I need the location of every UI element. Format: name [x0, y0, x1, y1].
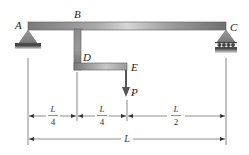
svg-text:L: L	[49, 104, 55, 114]
svg-text:2: 2	[174, 117, 179, 127]
dim-total-label: L	[123, 133, 130, 144]
label-c: C	[230, 21, 238, 33]
dim-seg1: L 4	[48, 104, 58, 127]
svg-text:L: L	[172, 104, 178, 114]
label-p: P	[130, 86, 138, 98]
svg-text:4: 4	[51, 117, 56, 127]
label-b: B	[74, 8, 81, 20]
svg-text:L: L	[98, 104, 104, 114]
dim-seg2: L 4	[97, 104, 107, 127]
pin-support-a	[15, 30, 41, 49]
roller-support-c	[215, 30, 237, 53]
label-e: E	[130, 61, 138, 73]
beam-ac	[28, 22, 226, 30]
beam-diagram: A B C D E P L 4 L 4 L 2	[0, 0, 249, 155]
label-d: D	[82, 51, 91, 63]
dim-seg3: L 2	[171, 104, 181, 127]
svg-text:4: 4	[100, 117, 105, 127]
load-arrow-p	[122, 70, 130, 97]
arm-de	[74, 63, 127, 70]
label-a: A	[14, 19, 22, 31]
